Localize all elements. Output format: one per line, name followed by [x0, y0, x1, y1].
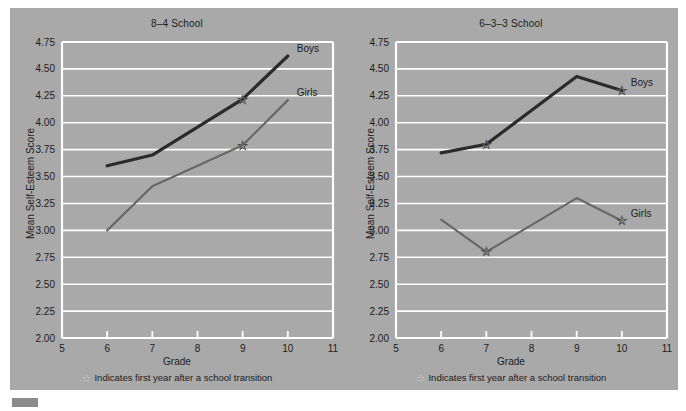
series-line-boys [441, 76, 622, 152]
y-tick-label: 4.50 [370, 63, 390, 74]
y-tick-label: 3.75 [36, 144, 56, 155]
x-tick-label: 5 [59, 343, 65, 354]
y-tick-label: 2.25 [370, 306, 390, 317]
plot-area-right: 2.002.252.502.753.003.253.503.754.004.25… [344, 8, 678, 390]
figure-panel: 8–4 School Mean Self-Esteem Score 2.002.… [10, 8, 678, 390]
footnote-text-left: Indicates first year after a school tran… [94, 372, 272, 383]
y-tick-label: 3.00 [36, 225, 56, 236]
y-tick-label: 3.50 [370, 171, 390, 182]
x-tick-label: 5 [393, 343, 399, 354]
x-tick-label: 10 [616, 343, 628, 354]
y-tick-label: 4.25 [36, 90, 56, 101]
y-tick-label: 4.25 [370, 90, 390, 101]
chart-panel-right: 6–3–3 School Mean Self-Esteem Score 2.00… [344, 8, 678, 390]
series-label-girls: Girls [631, 208, 652, 219]
x-tick-label: 9 [574, 343, 580, 354]
y-tick-label: 4.75 [36, 37, 56, 48]
y-tick-label: 3.25 [370, 198, 390, 209]
transition-star-icon: ☆ [481, 137, 493, 152]
chart-panel-left: 8–4 School Mean Self-Esteem Score 2.002.… [10, 8, 344, 390]
x-tick-label: 10 [282, 343, 294, 354]
y-tick-label: 2.50 [36, 279, 56, 290]
footnote-text-right: Indicates first year after a school tran… [428, 372, 606, 383]
y-tick-label: 4.00 [36, 117, 56, 128]
figure-root: 8–4 School Mean Self-Esteem Score 2.002.… [0, 0, 686, 411]
series-label-boys: Boys [297, 43, 319, 54]
plot-area-left: 2.002.252.502.753.003.253.503.754.004.25… [10, 8, 344, 390]
corner-mark [12, 398, 38, 407]
x-tick-label: 6 [438, 343, 444, 354]
y-tick-label: 2.00 [370, 333, 390, 344]
y-tick-label: 2.00 [36, 333, 56, 344]
y-tick-label: 2.50 [370, 279, 390, 290]
x-tick-label: 7 [484, 343, 490, 354]
transition-star-icon: ☆ [481, 244, 493, 259]
y-tick-label: 4.00 [370, 117, 390, 128]
y-tick-label: 2.75 [36, 252, 56, 263]
y-tick-label: 3.75 [370, 144, 390, 155]
series-label-girls: Girls [297, 87, 318, 98]
transition-star-icon: ☆ [237, 138, 249, 153]
x-tick-label: 9 [240, 343, 246, 354]
series-line-girls [441, 198, 622, 252]
series-label-boys: Boys [631, 77, 653, 88]
series-line-girls [107, 100, 288, 230]
y-tick-label: 3.00 [370, 225, 390, 236]
transition-star-icon: ☆ [616, 213, 628, 228]
x-tick-label: 7 [150, 343, 156, 354]
footnote-left: ☆Indicates first year after a school tra… [10, 372, 344, 385]
y-tick-label: 2.25 [36, 306, 56, 317]
y-tick-label: 4.50 [36, 63, 56, 74]
y-tick-label: 3.50 [36, 171, 56, 182]
x-tick-label: 11 [662, 343, 673, 354]
transition-star-icon: ☆ [237, 92, 249, 107]
x-axis-title-right: Grade [344, 356, 678, 367]
x-tick-label: 8 [529, 343, 535, 354]
y-tick-label: 4.75 [370, 37, 390, 48]
x-axis-title-left: Grade [10, 356, 344, 367]
y-tick-label: 2.75 [370, 252, 390, 263]
y-tick-label: 3.25 [36, 198, 56, 209]
x-tick-label: 8 [195, 343, 201, 354]
footnote-right: ☆Indicates first year after a school tra… [344, 372, 678, 385]
x-tick-label: 11 [328, 343, 339, 354]
star-icon: ☆ [82, 372, 92, 384]
x-tick-label: 6 [104, 343, 110, 354]
transition-star-icon: ☆ [616, 83, 628, 98]
star-icon: ☆ [416, 372, 426, 384]
